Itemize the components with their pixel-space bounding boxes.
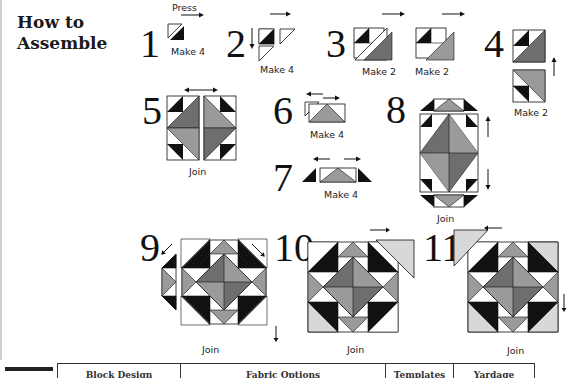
up-arrow-icon (552, 57, 557, 76)
right-arrow-icon (442, 12, 465, 17)
step-3-number: 3 (326, 24, 346, 64)
step-7-number: 7 (273, 158, 293, 198)
table-header-fabric-options: Fabric Options (180, 363, 385, 378)
page-margin-rule (0, 0, 2, 360)
step-3-caption-a: Make 2 (362, 66, 396, 77)
step-2-number: 2 (226, 24, 246, 64)
side-strip-dark (162, 296, 176, 310)
info-table-header: Block Design Fabric Options Templates Ya… (0, 363, 573, 375)
flying-geese-unit-a (354, 28, 392, 60)
step-8-caption: Join (437, 213, 454, 224)
bottom-border-strip (420, 195, 478, 207)
step-9-diagram (160, 236, 270, 341)
heading-line-2: Assemble (17, 33, 107, 54)
step-5-diagram (165, 84, 265, 164)
down-arrow-icon (274, 326, 279, 342)
step-10-diagram (306, 226, 421, 341)
table-header-block-design: Block Design (57, 363, 180, 378)
step-9-number: 9 (140, 228, 160, 268)
diagonal-arrow-icon (161, 244, 172, 255)
step-4-number: 4 (484, 24, 504, 64)
step-4-diagram (511, 28, 561, 98)
step-8-number: 8 (386, 90, 406, 130)
half-block-left (167, 96, 199, 160)
press-arrow-icon (181, 13, 204, 18)
step-6-diagram (303, 90, 353, 126)
step-5-number: 5 (142, 91, 162, 131)
flying-geese-unit-b (416, 28, 454, 60)
right-arrow-icon (382, 12, 405, 17)
down-arrow-icon (486, 169, 491, 190)
double-arrow-icon (306, 92, 340, 101)
step-8-diagram (418, 97, 498, 212)
top-border-strip (420, 99, 478, 111)
up-arrow-icon (486, 116, 491, 137)
down-arrow-icon (562, 294, 567, 312)
step-9-caption: Join (202, 344, 219, 355)
step-7-caption: Make 4 (324, 189, 358, 200)
step-5-caption: Join (189, 166, 206, 177)
right-arrow-icon (344, 157, 361, 162)
half-square-triangle-unit (168, 24, 184, 40)
step-2-diagram (248, 10, 303, 60)
step-11-caption: Join (507, 345, 524, 356)
step-7-diagram (300, 154, 380, 186)
step-6-caption: Make 4 (310, 129, 344, 140)
step-1-diagram (165, 10, 205, 40)
section-heading: How to Assemble (17, 12, 107, 54)
table-header-yardage: Yardage (453, 363, 535, 378)
down-arrow-icon (250, 28, 255, 49)
table-marker-bar (5, 367, 53, 371)
step-2-caption: Make 4 (260, 64, 294, 75)
step-6-number: 6 (273, 91, 293, 131)
step-4-caption: Make 2 (514, 107, 548, 118)
step-3-caption-b: Make 2 (415, 66, 449, 77)
step-3-diagram (352, 10, 472, 68)
side-strip-dark (162, 254, 176, 268)
right-arrow-icon (370, 228, 390, 233)
heading-line-1: How to (17, 12, 107, 33)
step-1-caption: Make 4 (171, 46, 205, 57)
step-11-diagram (460, 226, 573, 346)
right-arrow-icon (270, 12, 291, 17)
left-arrow-icon (313, 157, 330, 162)
half-block-right (204, 96, 236, 160)
double-arrow-icon (184, 88, 218, 93)
step-1-number: 1 (140, 24, 160, 64)
table-header-templates: Templates (385, 363, 453, 378)
step-10-caption: Join (347, 344, 364, 355)
center-block (420, 114, 478, 192)
